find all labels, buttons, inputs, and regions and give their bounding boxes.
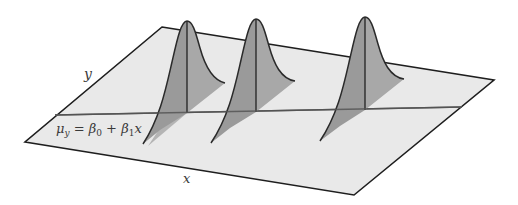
- mu-symbol: μ: [56, 121, 64, 136]
- regression-diagram: y x μy = β0 + β1x: [0, 0, 518, 205]
- beta0-symbol: β: [88, 121, 97, 136]
- x-axis-label: x: [183, 171, 191, 186]
- equals-sign: =: [70, 121, 89, 136]
- y-axis-label: y: [83, 66, 93, 82]
- x-variable: x: [134, 121, 142, 136]
- beta1-symbol: β: [120, 121, 129, 136]
- plus-sign: +: [102, 121, 121, 136]
